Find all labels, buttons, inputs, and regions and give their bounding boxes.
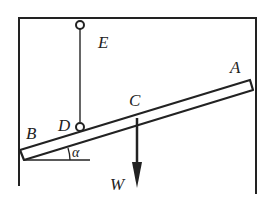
label-c: C — [129, 91, 141, 110]
label-a: A — [229, 58, 241, 77]
statics-diagram: E A C D B α W — [0, 0, 277, 204]
label-alpha: α — [72, 145, 80, 160]
weight-arrow-head — [132, 162, 142, 188]
pin-d — [76, 123, 84, 131]
label-w: W — [110, 175, 126, 194]
pin-e — [76, 21, 84, 29]
angle-arc — [68, 148, 70, 160]
label-d: D — [57, 116, 71, 135]
label-b: B — [26, 124, 37, 143]
label-e: E — [97, 33, 109, 52]
